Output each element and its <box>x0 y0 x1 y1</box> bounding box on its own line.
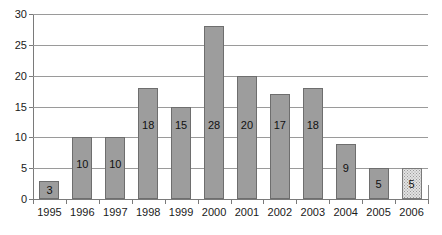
gridline <box>33 45 428 46</box>
x-axis-tick-label: 1997 <box>99 207 132 218</box>
y-axis-tick-label: 15 <box>15 101 27 112</box>
x-axis-tick <box>165 199 166 204</box>
y-axis-tick <box>29 45 33 46</box>
x-axis-tick <box>362 199 363 204</box>
x-axis-tick <box>263 199 264 204</box>
x-axis-tick <box>198 199 199 204</box>
x-axis-tick <box>296 199 297 204</box>
x-axis-tick <box>33 199 34 204</box>
x-axis-tick-label: 1996 <box>66 207 99 218</box>
x-axis-tick-label: 2003 <box>296 207 329 218</box>
x-axis-tick-label: 2005 <box>362 207 395 218</box>
y-axis-tick <box>29 76 33 77</box>
x-axis-tick-label: 1995 <box>33 207 66 218</box>
bar <box>270 94 290 199</box>
bar-value-label: 9 <box>343 162 349 173</box>
y-axis-tick <box>29 168 33 169</box>
y-axis-tick <box>29 137 33 138</box>
bar-value-label: 10 <box>109 159 121 170</box>
x-axis-tick <box>132 199 133 204</box>
bar-value-label: 3 <box>46 184 52 195</box>
y-axis-tick-label: 30 <box>15 9 27 20</box>
bar-value-label: 28 <box>208 120 220 131</box>
plot-area: 051015202530 31010181528201718955 <box>33 14 428 199</box>
x-axis-tick-label: 2000 <box>198 207 231 218</box>
bar <box>204 26 224 199</box>
gridline <box>33 76 428 77</box>
x-axis-tick-label: 2004 <box>329 207 362 218</box>
x-axis-tick-label: 1998 <box>132 207 165 218</box>
x-axis-tick-label: 2002 <box>263 207 296 218</box>
bar-value-label: 20 <box>241 120 253 131</box>
y-axis-tick-label: 20 <box>15 70 27 81</box>
gridline <box>33 107 428 108</box>
bar-value-label: 17 <box>274 120 286 131</box>
x-axis-tick <box>428 199 429 204</box>
bar-chart: 051015202530 31010181528201718955 199519… <box>0 0 442 235</box>
bar-value-label: 18 <box>142 120 154 131</box>
bar-value-label: 15 <box>175 120 187 131</box>
x-axis-tick <box>231 199 232 204</box>
x-axis-tick-label: 2006 <box>395 207 428 218</box>
y-axis-tick-label: 0 <box>21 194 27 205</box>
x-axis-tick-label: 2001 <box>231 207 264 218</box>
x-axis-tick <box>329 199 330 204</box>
gridline <box>33 14 428 15</box>
y-axis-tick <box>29 14 33 15</box>
y-axis-tick <box>29 107 33 108</box>
x-axis-tick <box>99 199 100 204</box>
bar-value-label: 10 <box>76 159 88 170</box>
bar <box>303 88 323 199</box>
bar <box>237 76 257 199</box>
bar-value-label: 5 <box>376 178 382 189</box>
bar-value-label: 5 <box>408 178 414 189</box>
bar-value-label: 18 <box>307 120 319 131</box>
x-axis-tick <box>66 199 67 204</box>
x-axis-tick <box>395 199 396 204</box>
bar <box>138 88 158 199</box>
plot-right-edge <box>428 185 429 200</box>
x-axis-tick-label: 1999 <box>165 207 198 218</box>
y-axis-tick-label: 25 <box>15 39 27 50</box>
y-axis-tick-label: 10 <box>15 132 27 143</box>
y-axis-tick-label: 5 <box>21 163 27 174</box>
